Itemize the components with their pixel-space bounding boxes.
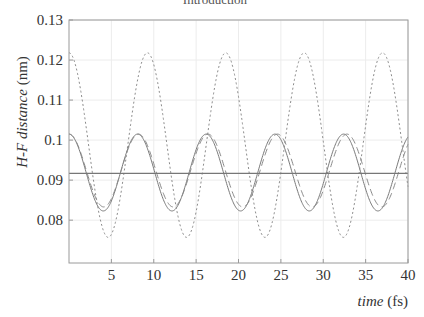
x-axis-label-name: time <box>358 293 384 309</box>
x-tick-label: 40 <box>401 267 416 283</box>
y-tick-label: 0.09 <box>37 172 63 188</box>
x-tick-label: 5 <box>108 267 116 283</box>
x-tick-label: 30 <box>316 267 331 283</box>
x-tick-label: 20 <box>231 267 246 283</box>
y-axis-label-name: H-F distance <box>14 89 30 169</box>
grid-lines <box>69 20 408 263</box>
line-chart: Introduction 0.080.090.10.110.120.13 510… <box>0 0 424 317</box>
y-axis-label-unit: (nm) <box>14 56 31 85</box>
x-axis-label: time (fs) <box>358 293 408 310</box>
x-tick-label: 10 <box>146 267 161 283</box>
y-tick-label: 0.13 <box>37 12 63 28</box>
x-axis-label-unit: (fs) <box>387 293 408 310</box>
y-tick-label: 0.1 <box>44 132 63 148</box>
chart-title: Introduction <box>183 0 248 7</box>
y-tick-label: 0.11 <box>37 92 63 108</box>
chart: Introduction 0.080.090.10.110.120.13 510… <box>0 0 424 317</box>
x-tick-label: 35 <box>358 267 373 283</box>
x-tick-label: 15 <box>189 267 204 283</box>
y-tick-label: 0.12 <box>37 52 63 68</box>
y-tick-label: 0.08 <box>37 212 63 228</box>
x-tick-label: 25 <box>273 267 288 283</box>
y-axis-ticks: 0.080.090.10.110.120.13 <box>37 12 73 228</box>
y-axis-label: H-F distance (nm) <box>14 56 31 169</box>
